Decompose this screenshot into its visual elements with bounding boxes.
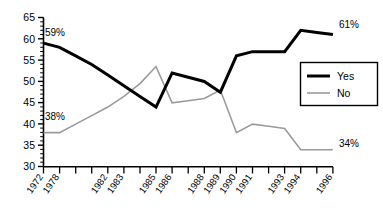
y-axis-label-35: 35 <box>23 139 35 151</box>
y-axis-label-30: 30 <box>23 160 35 172</box>
legend-label-no: No <box>337 87 351 99</box>
legend-box <box>301 63 378 106</box>
annotation-61-percent: 61% <box>339 19 359 30</box>
annotation-38-percent: 38% <box>45 111 65 122</box>
annotation-59-percent: 59% <box>45 27 65 38</box>
y-axis-label-65: 65 <box>23 11 35 23</box>
y-axis-label-60: 60 <box>23 33 35 45</box>
y-axis-label-45: 45 <box>23 96 35 108</box>
y-axis-label-40: 40 <box>23 118 35 130</box>
y-axis-label-55: 55 <box>23 54 35 66</box>
legend-label-yes: Yes <box>337 70 354 82</box>
annotation-34-percent: 34% <box>339 138 359 149</box>
line-chart: 65 60 55 50 45 40 35 30 <box>0 0 383 208</box>
legend: Yes No <box>301 63 378 106</box>
y-axis-label-50: 50 <box>23 75 35 87</box>
